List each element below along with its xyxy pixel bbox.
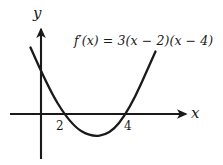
x-tick-label-4: 4	[124, 120, 132, 132]
equation-annotation: f′(x) = 3(x − 2)(x − 4)	[74, 35, 213, 48]
axis-label-x: x	[191, 106, 199, 121]
x-tick-label-2: 2	[56, 120, 64, 132]
axis-label-y: y	[33, 6, 41, 21]
derivative-curve	[31, 48, 156, 136]
plot-canvas	[0, 0, 223, 165]
derivative-graph-figure: y x 2 4 f′(x) = 3(x − 2)(x − 4)	[0, 0, 223, 165]
